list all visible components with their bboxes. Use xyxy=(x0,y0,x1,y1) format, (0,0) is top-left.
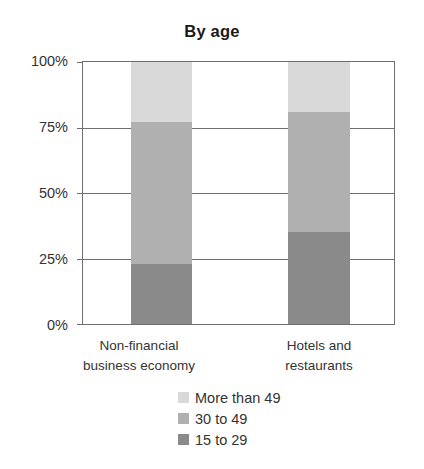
legend-item-label: 30 to 49 xyxy=(195,411,247,427)
y-tick-label-100: 100% xyxy=(0,53,76,69)
legend-item-label: 15 to 29 xyxy=(195,432,247,448)
y-tick-label-25: 25% xyxy=(0,251,76,267)
bar-segment-30-to-49[interactable] xyxy=(131,122,192,263)
y-tick-label-75: 75% xyxy=(0,119,76,135)
legend-swatch-icon xyxy=(178,413,189,424)
y-tick-mark-100 xyxy=(77,62,83,63)
legend-item-30-to-49[interactable]: 30 to 49 xyxy=(178,408,378,429)
chart-figure: By age 100% 75% 50% 25% 0% Non-f xyxy=(0,0,424,469)
y-tick-label-50: 50% xyxy=(0,185,76,201)
y-tick-label-0: 0% xyxy=(0,317,76,333)
bar-segment-30-to-49[interactable] xyxy=(288,112,350,233)
legend-item-label: More than 49 xyxy=(195,390,280,406)
bar-segment-more-than-49[interactable] xyxy=(288,62,350,112)
chart-legend: More than 49 30 to 49 15 to 29 xyxy=(178,387,378,450)
bar-hotels-and-restaurants[interactable] xyxy=(288,62,350,324)
y-tick-mark-75 xyxy=(77,128,83,129)
legend-item-more-than-49[interactable]: More than 49 xyxy=(178,387,378,408)
y-axis-labels: 100% 75% 50% 25% 0% xyxy=(0,61,76,325)
x-category-line-2: restaurants xyxy=(252,356,386,376)
plot-area xyxy=(82,61,395,325)
chart-title: By age xyxy=(0,22,424,41)
bar-segment-more-than-49[interactable] xyxy=(131,62,192,122)
x-category-label-non-financial-business-economy: Non-financial business economy xyxy=(78,336,200,376)
x-category-label-hotels-and-restaurants: Hotels and restaurants xyxy=(252,336,386,376)
bar-segment-15-to-29[interactable] xyxy=(288,232,350,324)
bar-non-financial-business-economy[interactable] xyxy=(131,62,192,324)
y-tick-mark-0 xyxy=(77,324,83,325)
legend-item-15-to-29[interactable]: 15 to 29 xyxy=(178,429,378,450)
x-category-line-2: business economy xyxy=(78,356,200,376)
y-tick-mark-25 xyxy=(77,259,83,260)
bar-segment-15-to-29[interactable] xyxy=(131,264,192,324)
x-category-line-1: Non-financial xyxy=(78,336,200,356)
legend-swatch-icon xyxy=(178,434,189,445)
y-tick-mark-50 xyxy=(77,193,83,194)
x-category-line-1: Hotels and xyxy=(252,336,386,356)
legend-swatch-icon xyxy=(178,392,189,403)
